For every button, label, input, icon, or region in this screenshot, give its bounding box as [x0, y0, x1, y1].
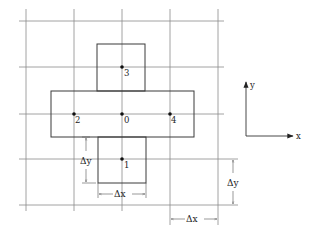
dy-grid-label: Δy: [227, 178, 239, 188]
y-axis-label: y: [249, 80, 255, 90]
coordinate-axes: y x: [246, 80, 301, 141]
x-axis-label: x: [296, 131, 301, 141]
stencil-points: 0 1 2 3 4: [72, 65, 176, 170]
dx-label: Δx: [114, 189, 126, 199]
point-label-2: 2: [75, 115, 80, 125]
stencil-diagram: 0 1 2 3 4 Δy Δx Δy Δx: [0, 0, 314, 227]
dy-label: Δy: [80, 156, 92, 166]
dimension-dy-cell: Δy: [80, 137, 96, 183]
dx-grid-label: Δx: [186, 214, 198, 224]
point-label-3: 3: [124, 68, 129, 78]
dimension-dy-grid: Δy: [227, 160, 239, 204]
point-label-1: 1: [124, 160, 129, 170]
dimension-dx-grid: Δx: [171, 214, 217, 224]
point-label-0: 0: [124, 115, 129, 125]
point-label-4: 4: [171, 115, 176, 125]
